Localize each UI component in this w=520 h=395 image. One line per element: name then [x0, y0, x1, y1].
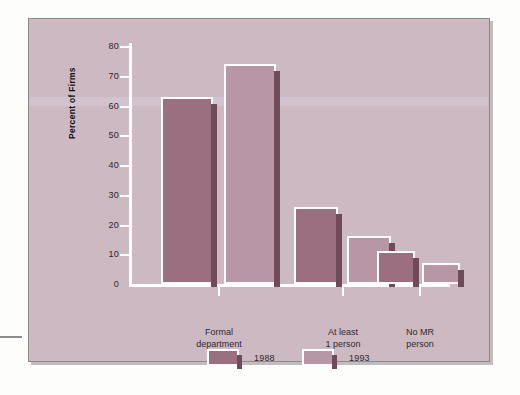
legend-swatch-1993 — [302, 349, 334, 366]
bar-1988-at-least-1-person — [294, 207, 338, 284]
y-tick-mark — [120, 106, 129, 108]
y-axis-tick-labels: 80 70 60 50 40 30 20 10 0 — [89, 46, 119, 284]
y-tick-mark — [120, 76, 129, 78]
y-tick-label: 20 — [109, 220, 119, 230]
y-tick-mark — [120, 165, 129, 167]
y-tick-mark — [120, 254, 129, 256]
bar-1988-no-mr-person — [377, 251, 415, 284]
legend-swatch-1988 — [207, 349, 239, 366]
y-tick-label: 60 — [109, 101, 119, 111]
y-tick-label: 30 — [109, 190, 119, 200]
category-label-line1: No MR — [406, 326, 434, 338]
x-tick-mark — [342, 287, 344, 296]
chart-figure-frame: Percent of Firms 80 70 60 50 40 30 20 10… — [28, 18, 490, 362]
y-tick-label: 70 — [109, 71, 119, 81]
y-tick-mark — [120, 225, 129, 227]
y-axis-title: Percent of Firms — [67, 67, 77, 139]
x-tick-mark — [218, 287, 220, 296]
chart-legend: 1988 1993 — [129, 349, 447, 375]
bar-1993-no-mr-person — [422, 263, 460, 284]
y-tick-label: 50 — [109, 130, 119, 140]
bar-1988-formal-department — [161, 97, 213, 284]
category-label-line1: At least — [325, 326, 360, 338]
y-tick-label: 0 — [114, 279, 119, 289]
x-tick-mark — [419, 287, 421, 296]
scanned-page: Percent of Firms 80 70 60 50 40 30 20 10… — [0, 0, 520, 395]
y-tick-mark — [120, 135, 129, 137]
page-margin-rule — [0, 336, 22, 338]
legend-label-1988: 1988 — [254, 353, 275, 363]
x-category-label-at-least-1-person: At least 1 person — [325, 326, 360, 350]
bar-1993-formal-department — [224, 64, 276, 284]
category-label-line1: Formal — [196, 326, 242, 338]
legend-item-1993: 1993 — [302, 349, 370, 366]
y-tick-label: 10 — [109, 249, 119, 259]
legend-label-1993: 1993 — [349, 353, 370, 363]
y-axis-line — [129, 43, 132, 287]
y-tick-label: 40 — [109, 160, 119, 170]
legend-item-1988: 1988 — [207, 349, 275, 366]
y-tick-mark — [120, 46, 129, 48]
y-tick-label: 80 — [109, 41, 119, 51]
x-category-label-no-mr-person: No MR person — [406, 326, 434, 350]
x-category-label-formal-department: Formal department — [196, 326, 242, 350]
y-tick-mark — [120, 195, 129, 197]
plot-area: Formal department At least 1 person No M… — [129, 46, 447, 284]
x-axis-line — [129, 284, 450, 287]
